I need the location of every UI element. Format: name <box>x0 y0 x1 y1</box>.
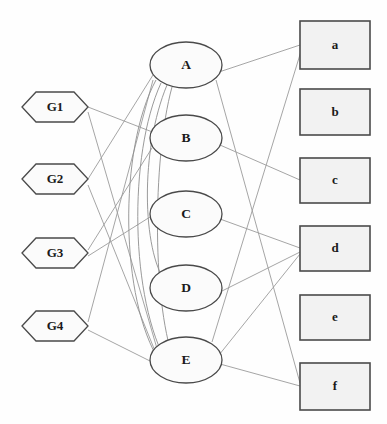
node-g2-label: G2 <box>47 171 64 186</box>
node-c[interactable]: C <box>150 191 222 237</box>
edge-a-d-curve <box>147 85 167 283</box>
node-out-e[interactable]: e <box>300 295 370 340</box>
node-g3[interactable]: G3 <box>22 238 88 268</box>
node-g3-label: G3 <box>47 245 64 260</box>
node-d-label: D <box>181 280 191 295</box>
node-out-c-label: c <box>332 172 338 187</box>
node-e[interactable]: E <box>150 337 222 383</box>
edge-d-d <box>220 252 300 292</box>
node-out-e-label: e <box>332 309 338 324</box>
graph-svg: G1 G2 G3 G4 A B <box>0 0 387 424</box>
node-c-label: C <box>181 206 191 221</box>
node-group-middle: A B C D E <box>150 42 222 383</box>
node-out-d-label: d <box>331 240 339 255</box>
node-out-d[interactable]: d <box>300 226 370 271</box>
node-group-genes: G1 G2 G3 G4 <box>22 92 88 341</box>
node-out-c[interactable]: c <box>300 158 370 203</box>
node-b-label: B <box>181 130 190 145</box>
edge-group-right <box>212 45 302 386</box>
node-out-a-label: a <box>332 37 339 52</box>
diagram-canvas: G1 G2 G3 G4 A B <box>0 0 387 424</box>
node-g2[interactable]: G2 <box>22 164 88 194</box>
node-out-f-label: f <box>333 378 338 393</box>
edge-g2-e <box>88 185 157 356</box>
node-d[interactable]: D <box>150 265 222 311</box>
edge-g3-c <box>88 217 150 256</box>
edge-group-left <box>88 75 158 362</box>
edge-g4-e <box>88 330 152 362</box>
node-g1-label: G1 <box>47 99 64 114</box>
node-g1[interactable]: G1 <box>22 92 88 122</box>
edge-e-a <box>212 48 302 342</box>
node-a[interactable]: A <box>150 42 222 88</box>
node-out-f[interactable]: f <box>300 363 370 410</box>
node-group-outputs: a b c d e f <box>300 21 370 410</box>
edge-g2-a <box>88 75 153 179</box>
edge-c-d <box>220 219 300 248</box>
node-out-a[interactable]: a <box>300 21 370 69</box>
edge-a-f <box>216 80 300 383</box>
node-g4-label: G4 <box>47 318 64 333</box>
node-out-b[interactable]: b <box>300 89 370 135</box>
edge-e-f <box>220 364 300 386</box>
node-b[interactable]: B <box>150 115 222 161</box>
node-out-b-label: b <box>331 104 338 119</box>
edge-b-c <box>220 145 300 180</box>
edge-g1-e <box>88 112 158 352</box>
edge-a-a <box>219 45 300 72</box>
node-a-label: A <box>181 57 191 72</box>
node-e-label: E <box>181 352 190 367</box>
node-g4[interactable]: G4 <box>22 311 88 341</box>
